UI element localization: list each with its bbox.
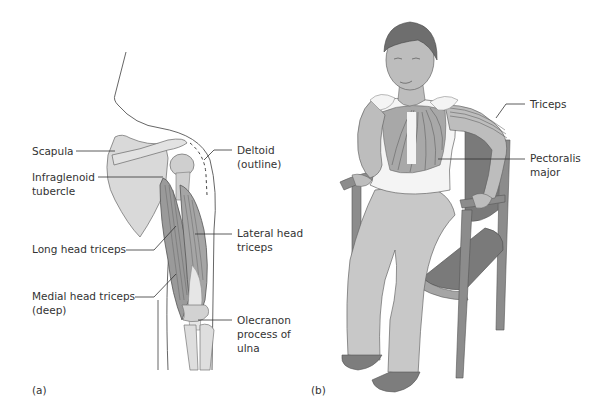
label-deltoid-line1: Deltoid [237,144,275,157]
label-infraglenoid-tubercle-line2: tubercle [32,185,75,198]
label-olecranon-line2: process of [237,328,291,341]
label-lateral-head-triceps-line2: triceps [237,241,273,254]
caption-b: (b) [311,384,326,396]
seated-figure-illustration [300,0,610,417]
label-medial-head-triceps-line1: Medial head triceps [32,290,135,303]
label-pectoralis-major-line1: Pectoralis [530,152,581,165]
panel-a-arm-anatomy: Scapula Infraglenoid tubercle Deltoid (o… [0,0,300,417]
label-pectoralis-major-line2: major [530,166,560,179]
label-deltoid-line2: (outline) [237,158,281,171]
label-olecranon-line1: Olecranon [237,314,291,327]
panel-b-seated-figure: Triceps Pectoralis major (b) [300,0,610,417]
caption-a: (a) [32,384,47,396]
label-olecranon-line3: ulna [237,342,260,355]
label-medial-head-triceps-line2: (deep) [32,304,66,317]
label-triceps: Triceps [530,98,566,111]
label-infraglenoid-tubercle-line1: Infraglenoid [32,171,95,184]
label-scapula: Scapula [32,145,74,158]
label-long-head-triceps: Long head triceps [32,243,126,256]
label-lateral-head-triceps-line1: Lateral head [237,227,303,240]
